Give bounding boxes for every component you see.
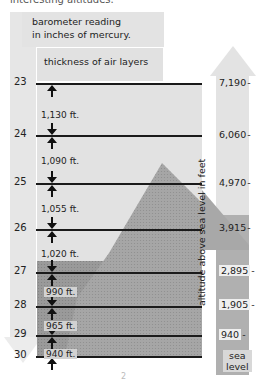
page-mark: 2 bbox=[121, 372, 126, 381]
sea-level-line-1: sea bbox=[226, 350, 249, 361]
layer-thickness-label: 1,130 ft. bbox=[41, 110, 79, 120]
pressure-direction-arrow-shaft bbox=[10, 12, 36, 337]
barometer-reading-label: 25 bbox=[14, 176, 34, 187]
altitude-label: 940- bbox=[219, 329, 246, 340]
altitude-label: 1,905- bbox=[219, 299, 255, 310]
layer-thickness-label: 965 ft. bbox=[44, 321, 77, 331]
layer-thickness-label: 940 ft. bbox=[44, 349, 77, 359]
altitude-tick: - bbox=[247, 129, 250, 140]
altitude-value: 1,905 bbox=[219, 299, 250, 310]
pressure-line bbox=[36, 229, 202, 231]
title-line-2: in inches of mercury. bbox=[32, 28, 131, 41]
layer-thickness-label: 1,090 ft. bbox=[41, 156, 79, 166]
pressure-line bbox=[36, 272, 202, 274]
subtitle: thickness of air layers bbox=[44, 56, 148, 67]
down-arrow-icon bbox=[46, 171, 58, 183]
altitude-tick: - bbox=[247, 77, 250, 88]
down-arrow-icon bbox=[46, 123, 58, 135]
pressure-line bbox=[36, 306, 202, 308]
air-layer-illustration bbox=[37, 83, 202, 356]
sea-level-label: sea level bbox=[223, 350, 252, 372]
air-layer-panel bbox=[37, 83, 202, 356]
mountain-slope-right bbox=[202, 190, 252, 250]
pressure-line bbox=[36, 335, 202, 337]
up-arrow-icon bbox=[46, 308, 58, 320]
altitude-value: 2,895 bbox=[219, 265, 250, 276]
altitude-value: 6,060 bbox=[219, 129, 246, 140]
layer-thickness-label: 1,055 ft. bbox=[41, 204, 79, 214]
altitude-tick: - bbox=[242, 329, 245, 340]
title-line-1: barometer reading bbox=[32, 15, 131, 28]
altitude-value: 3,915 bbox=[219, 222, 246, 233]
down-arrow-icon bbox=[46, 260, 58, 272]
altitude-label: 6,060- bbox=[219, 129, 251, 140]
barometer-reading-label: 28 bbox=[14, 299, 34, 310]
barometer-reading-label: 26 bbox=[14, 222, 34, 233]
altitude-label: 4,970- bbox=[219, 177, 251, 188]
altitude-tick: - bbox=[251, 265, 254, 276]
altitude-label: 7,190- bbox=[219, 77, 251, 88]
altitude-tick: - bbox=[247, 177, 250, 188]
altitude-label: 2,895- bbox=[219, 265, 255, 276]
barometer-reading-label: 23 bbox=[14, 76, 34, 87]
altitude-label: 3,915- bbox=[219, 222, 251, 233]
barometer-reading-label: 29 bbox=[14, 328, 34, 339]
up-arrow-icon bbox=[46, 85, 58, 97]
mountain-shape bbox=[65, 163, 202, 356]
layer-thickness-label: 1,020 ft. bbox=[41, 249, 79, 259]
altitude-value: 7,190 bbox=[219, 77, 246, 88]
up-arrow-icon bbox=[210, 46, 256, 76]
pressure-line bbox=[36, 83, 202, 85]
barometer-reading-label: 27 bbox=[14, 265, 34, 276]
pressure-line bbox=[36, 183, 202, 185]
up-arrow-icon bbox=[46, 231, 58, 243]
altitude-value: 4,970 bbox=[219, 177, 246, 188]
altitude-tick: - bbox=[251, 299, 254, 310]
title: barometer reading in inches of mercury. bbox=[32, 15, 131, 41]
up-arrow-icon bbox=[46, 185, 58, 197]
sea-level-line-2: level bbox=[226, 361, 249, 372]
altitude-tick: - bbox=[247, 222, 250, 233]
vertical-axis-label: altitude above sea level in feet bbox=[196, 159, 207, 306]
caption-fragment: interesting altitudes. bbox=[10, 0, 114, 5]
pressure-line bbox=[36, 135, 202, 137]
up-arrow-icon bbox=[46, 274, 58, 286]
layer-thickness-label: 990 ft. bbox=[44, 287, 77, 297]
up-arrow-icon bbox=[46, 358, 58, 370]
up-arrow-icon bbox=[46, 137, 58, 149]
barometer-reading-label: 30 bbox=[14, 349, 34, 360]
altitude-value: 940 bbox=[219, 329, 241, 340]
barometer-reading-label: 24 bbox=[14, 128, 34, 139]
down-arrow-icon bbox=[46, 217, 58, 229]
